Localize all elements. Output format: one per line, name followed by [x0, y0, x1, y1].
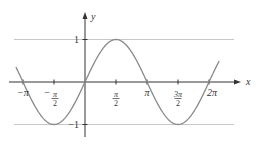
y-axis-label: y: [90, 11, 96, 22]
x-tick-label-two-pi: 2π: [207, 87, 218, 98]
x-tick-label-half-pi-numerator: π: [114, 90, 119, 99]
sine-chart: −π−π2π2π3π22π1−1xy: [0, 0, 256, 147]
x-tick-label-neg-half-pi-denominator: 2: [53, 99, 57, 108]
x-axis-arrow-icon: [234, 80, 241, 85]
x-axis-label: x: [245, 76, 251, 87]
x-tick-label-half-pi-denominator: 2: [114, 99, 118, 108]
y-tick-label: −1: [68, 119, 79, 130]
axis-labels: −π−π2π2π3π22π1−1xy: [17, 11, 251, 130]
x-tick-label-neg-pi: −π: [17, 87, 30, 98]
x-tick-label-three-half-pi-numerator: 3π: [173, 90, 183, 99]
x-tick-label-neg-half-pi-numerator: π: [53, 90, 58, 99]
y-tick-label: 1: [74, 34, 79, 45]
x-tick-label-three-half-pi-denominator: 2: [176, 99, 180, 108]
x-tick-label-neg-sign: −: [44, 87, 50, 98]
y-axis-arrow-icon: [83, 12, 88, 19]
